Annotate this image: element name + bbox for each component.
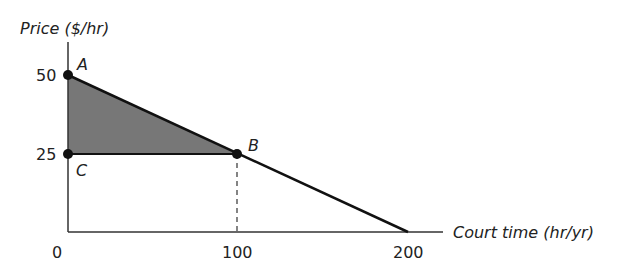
point-a-label: A (76, 55, 88, 74)
point-b-label: B (248, 136, 259, 155)
y-axis-label: Price ($/hr) (20, 19, 109, 38)
y-tick-50: 50 (36, 66, 56, 85)
x-axis-label: Court time (hr/yr) (453, 223, 594, 242)
point-c-label: C (76, 161, 88, 180)
x-tick-100: 100 (222, 243, 253, 262)
x-tick-0: 0 (52, 243, 62, 262)
demand-chart: Price ($/hr) Court time (hr/yr) 50 25 0 … (0, 0, 633, 280)
point-b (232, 149, 242, 159)
point-a (63, 70, 73, 80)
y-tick-25: 25 (36, 145, 56, 164)
x-tick-200: 200 (393, 243, 424, 262)
point-c (63, 149, 73, 159)
